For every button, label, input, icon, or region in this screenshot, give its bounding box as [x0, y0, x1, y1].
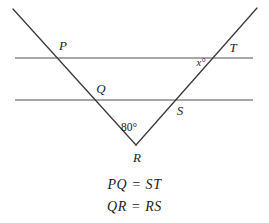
caption-block: PQ = ST QR = RS — [0, 174, 269, 218]
caption-line-pq-st: PQ = ST — [0, 174, 269, 196]
angle-label-x-degrees: x° — [197, 58, 206, 69]
left-ray-PR — [13, 9, 136, 145]
point-label-S: S — [177, 104, 184, 117]
right-ray-RT — [136, 8, 257, 145]
point-label-Q: Q — [96, 82, 105, 95]
point-label-T: T — [229, 41, 236, 54]
geometry-figure: P Q R S T 80° x° PQ = ST QR = RS — [0, 0, 269, 223]
angle-label-80-degrees: 80° — [121, 122, 137, 134]
point-label-R: R — [133, 151, 141, 164]
point-label-P: P — [59, 39, 67, 52]
caption-line-qr-rs: QR = RS — [0, 196, 269, 218]
